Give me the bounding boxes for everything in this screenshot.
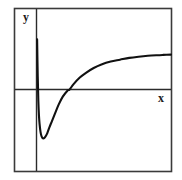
function-graph-figure: y x: [0, 0, 182, 180]
y-axis-label: y: [23, 11, 29, 23]
x-axis-label: x: [158, 92, 164, 104]
plot-canvas: [0, 0, 182, 180]
